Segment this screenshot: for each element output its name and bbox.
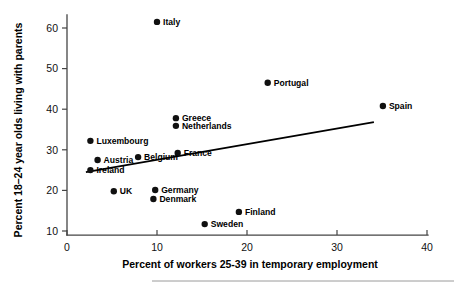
- point-marker-austria: [94, 157, 100, 163]
- point-marker-ireland: [87, 167, 93, 173]
- point-label-denmark: Denmark: [159, 194, 196, 204]
- point-marker-finland: [236, 209, 242, 215]
- point-marker-netherlands: [173, 123, 179, 129]
- point-label-luxembourg: Luxembourg: [96, 136, 148, 146]
- scatter-chart: 102030405060 010203040 Percent 18–24 yea…: [0, 0, 454, 286]
- x-axis-title: Percent of workers 25-39 in temporary em…: [122, 258, 378, 270]
- y-tick-label-50: 50: [46, 62, 58, 74]
- data-point[interactable]: Luxembourg: [87, 136, 148, 146]
- y-tick-label-10: 10: [46, 225, 58, 237]
- point-label-spain: Spain: [389, 101, 412, 111]
- x-tick-label-0: 0: [64, 241, 70, 253]
- point-label-finland: Finland: [245, 207, 276, 217]
- y-tick-label-30: 30: [46, 144, 58, 156]
- point-marker-spain: [380, 103, 386, 109]
- point-marker-luxembourg: [87, 138, 93, 144]
- x-tick-label-30: 30: [331, 241, 343, 253]
- x-tick-label-40: 40: [421, 241, 433, 253]
- point-label-sweden: Sweden: [211, 219, 243, 229]
- point-label-belgium: Belgium: [144, 152, 178, 162]
- point-marker-portugal: [265, 80, 271, 86]
- point-marker-denmark: [150, 196, 156, 202]
- point-label-uk: UK: [120, 186, 133, 196]
- y-tick-label-20: 20: [46, 184, 58, 196]
- data-point[interactable]: Netherlands: [173, 121, 232, 131]
- point-marker-greece: [173, 115, 179, 121]
- point-label-netherlands: Netherlands: [182, 121, 232, 131]
- point-label-austria: Austria: [104, 155, 134, 165]
- point-marker-belgium: [135, 154, 141, 160]
- y-tick-label-40: 40: [46, 103, 58, 115]
- x-tick-label-20: 20: [241, 241, 253, 253]
- y-tick-label-60: 60: [46, 22, 58, 34]
- point-label-portugal: Portugal: [274, 78, 309, 88]
- point-label-france: France: [184, 148, 212, 158]
- y-axis-title: Percent 18–24 year olds living with pare…: [12, 22, 24, 237]
- point-marker-sweden: [202, 221, 208, 227]
- x-tick-label-10: 10: [151, 241, 163, 253]
- point-marker-uk: [111, 188, 117, 194]
- point-marker-germany: [152, 187, 158, 193]
- point-marker-italy: [154, 19, 160, 25]
- chart-canvas: 102030405060 010203040 Percent 18–24 yea…: [0, 0, 454, 286]
- point-label-italy: Italy: [163, 17, 180, 27]
- point-label-ireland: Ireland: [96, 165, 124, 175]
